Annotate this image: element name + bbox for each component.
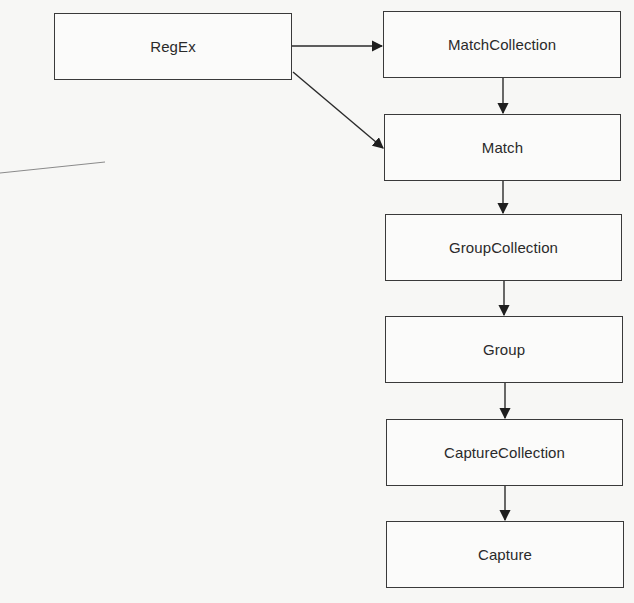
stray-line <box>0 162 105 173</box>
node-capture: Capture <box>386 521 624 588</box>
node-label: GroupCollection <box>449 239 558 256</box>
connectors-layer <box>0 0 634 603</box>
node-group: Group <box>385 316 623 383</box>
node-groupcollection: GroupCollection <box>385 214 622 281</box>
diagram-canvas: RegEx MatchCollection Match GroupCollect… <box>0 0 634 603</box>
node-label: Capture <box>478 546 532 563</box>
edge-regex-match <box>293 72 383 148</box>
node-match: Match <box>384 114 621 181</box>
node-capturecollection: CaptureCollection <box>386 419 623 486</box>
node-label: CaptureCollection <box>444 444 565 461</box>
node-label: MatchCollection <box>448 36 556 53</box>
node-label: Group <box>483 341 525 358</box>
node-matchcollection: MatchCollection <box>383 11 621 78</box>
node-label: RegEx <box>150 38 196 55</box>
node-regex: RegEx <box>54 13 292 80</box>
node-label: Match <box>482 139 523 156</box>
